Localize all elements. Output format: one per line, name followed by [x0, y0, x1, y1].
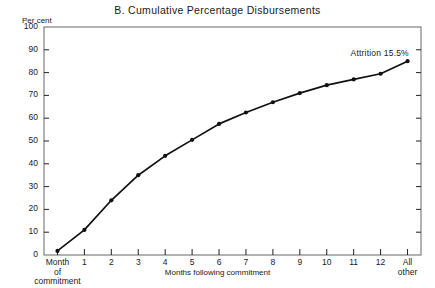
data-point [352, 77, 356, 81]
data-point-markers [55, 59, 409, 253]
data-point [190, 138, 194, 142]
data-point [405, 59, 409, 63]
plot-area [0, 0, 435, 288]
data-point [109, 198, 113, 202]
data-point [136, 173, 140, 177]
x-axis-ticks [57, 249, 407, 255]
data-point [325, 83, 329, 87]
data-point [82, 228, 86, 232]
data-point [163, 154, 167, 158]
data-point [379, 72, 383, 76]
data-series-line [57, 61, 407, 251]
plot-frame [44, 27, 421, 255]
data-point [217, 122, 221, 126]
data-point [298, 91, 302, 95]
data-point [271, 100, 275, 104]
data-point [244, 110, 248, 114]
data-point [55, 249, 59, 253]
chart-container: B. Cumulative Percentage Disbursements P… [0, 0, 435, 288]
